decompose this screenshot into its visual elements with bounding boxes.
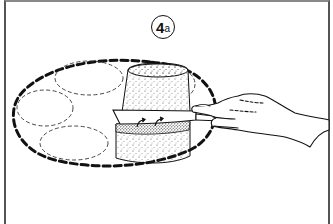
oval-outline-top — [55, 61, 123, 95]
step-suffix: a — [164, 24, 170, 34]
block-lower — [116, 121, 190, 163]
oval-outline-bottom — [40, 126, 108, 160]
step-number: 4 — [156, 20, 164, 35]
step-badge: 4 a — [151, 15, 175, 39]
oval-outline-left — [17, 90, 73, 126]
block-upper — [122, 63, 190, 112]
hand-illustration — [192, 94, 329, 147]
